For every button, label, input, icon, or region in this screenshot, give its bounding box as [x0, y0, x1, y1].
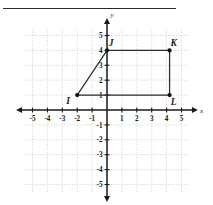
y-axis-arrow-down [104, 196, 110, 202]
vertex-point-j[interactable] [105, 48, 109, 52]
x-axis-tick-label: 4 [165, 115, 169, 123]
y-axis-tick-label: 5 [99, 32, 103, 40]
y-axis-tick-label: 4 [99, 47, 103, 55]
x-axis-arrow-left [16, 107, 22, 113]
vertex-point-i[interactable] [75, 93, 79, 97]
x-axis-tick-label: -1 [89, 115, 95, 123]
vertex-label-l: L [170, 97, 177, 107]
coordinate-grid-svg: -5-4-3-2-11234554321-1-2-3-4-5xyIJKL [0, 0, 213, 205]
coordinate-plane-figure: -5-4-3-2-11234554321-1-2-3-4-5xyIJKL [0, 0, 213, 205]
y-axis-label: y [110, 11, 115, 19]
y-axis-tick-label: -2 [97, 136, 103, 144]
vertex-label-j: J [108, 38, 114, 48]
y-axis-tick-label: -1 [97, 122, 103, 130]
x-axis-tick-label: -4 [44, 115, 50, 123]
x-axis-label: x [199, 107, 204, 115]
vertex-label-k: K [169, 38, 177, 48]
y-axis-tick-label: -5 [97, 181, 103, 189]
quadrilateral-ijkl [77, 50, 169, 95]
x-axis-tick-label: 2 [135, 115, 139, 123]
x-axis-tick-label: 1 [120, 115, 124, 123]
y-axis-arrow-up [104, 18, 110, 24]
y-axis-tick-label: 2 [99, 77, 103, 85]
vertex-label-i: I [65, 96, 70, 106]
vertex-point-k[interactable] [167, 48, 171, 52]
x-axis-arrow-right [192, 107, 198, 113]
y-axis-tick-label: -3 [97, 151, 103, 159]
x-axis-tick-label: -3 [59, 115, 65, 123]
y-axis-tick-label: -4 [97, 166, 103, 174]
x-axis-tick-label: 5 [180, 115, 184, 123]
x-axis-tick-label: -5 [30, 115, 36, 123]
y-axis-tick-label: 3 [99, 62, 103, 70]
x-axis-tick-label: 3 [150, 115, 154, 123]
x-axis-tick-label: -2 [74, 115, 80, 123]
